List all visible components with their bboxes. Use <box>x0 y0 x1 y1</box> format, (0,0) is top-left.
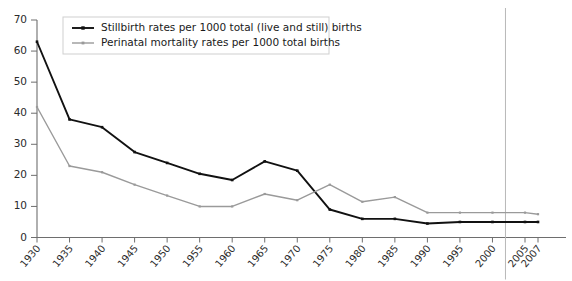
data-point <box>166 194 168 196</box>
x-tick-label: 1990 <box>408 243 433 270</box>
data-point <box>166 162 169 165</box>
data-point <box>394 218 397 221</box>
data-point <box>101 126 104 129</box>
series-line <box>37 107 538 214</box>
x-tick-label: 2000 <box>473 243 498 270</box>
data-point <box>491 212 493 214</box>
data-point <box>537 213 539 215</box>
x-tick-label: 1995 <box>441 243 466 270</box>
line-chart: 010203040506070 193019351940194519501955… <box>0 0 572 281</box>
legend-item-1[interactable]: Stillbirth rates per 1000 total (live an… <box>72 21 362 33</box>
y-axis-ticks: 010203040506070 <box>14 13 37 243</box>
x-tick-label: 1950 <box>148 243 173 270</box>
data-point <box>199 205 201 207</box>
legend-label: Stillbirth rates per 1000 total (live an… <box>101 21 362 33</box>
data-point <box>198 173 201 176</box>
data-point <box>537 221 540 224</box>
series-2 <box>36 106 539 215</box>
y-tick-label: 70 <box>14 13 27 25</box>
y-tick-label: 10 <box>14 199 27 211</box>
data-point <box>101 171 103 173</box>
data-point <box>426 212 428 214</box>
x-tick-label: 1945 <box>115 243 140 270</box>
data-point <box>133 151 136 154</box>
data-point <box>264 193 266 195</box>
x-tick-label: 1980 <box>343 243 368 270</box>
data-point <box>329 208 332 211</box>
data-point <box>394 196 396 198</box>
data-point <box>459 221 462 224</box>
data-point <box>68 165 70 167</box>
data-point <box>296 169 299 172</box>
data-point <box>426 222 429 225</box>
x-tick-label: 1975 <box>311 243 336 270</box>
series-line <box>37 42 538 224</box>
data-point <box>36 106 38 108</box>
x-tick-label: 1970 <box>278 243 303 270</box>
data-point <box>68 118 71 121</box>
data-point <box>231 205 233 207</box>
data-point <box>361 201 363 203</box>
x-tick-label: 1985 <box>376 243 401 270</box>
data-point <box>491 221 494 224</box>
data-point <box>134 184 136 186</box>
series-1 <box>36 40 540 224</box>
legend-swatch-marker <box>82 42 85 45</box>
legend-swatch-marker <box>81 26 84 29</box>
chart-legend: Stillbirth rates per 1000 total (live an… <box>63 17 362 54</box>
data-point <box>524 212 526 214</box>
series-layer <box>36 40 540 224</box>
data-point <box>296 199 298 201</box>
legend-item-2[interactable]: Perinatal mortality rates per 1000 total… <box>72 36 340 48</box>
y-tick-label: 20 <box>14 168 27 180</box>
data-point <box>459 212 461 214</box>
data-point <box>36 40 39 43</box>
x-tick-label: 1965 <box>245 243 270 270</box>
legend-label: Perinatal mortality rates per 1000 total… <box>101 36 340 48</box>
y-tick-label: 50 <box>14 75 27 87</box>
x-tick-label: 1930 <box>18 243 43 270</box>
data-point <box>263 160 266 163</box>
y-tick-label: 0 <box>20 231 27 243</box>
data-point <box>524 221 527 224</box>
x-tick-label: 1960 <box>213 243 238 270</box>
chart-container: 010203040506070 193019351940194519501955… <box>0 0 572 281</box>
x-tick-label: 1940 <box>83 243 108 270</box>
x-tick-label: 1935 <box>50 243 75 270</box>
x-axis-ticks: 1930193519401945195019551960196519701975… <box>18 238 544 270</box>
data-point <box>231 179 234 182</box>
y-tick-label: 40 <box>14 106 27 118</box>
data-point <box>329 184 331 186</box>
y-tick-label: 60 <box>14 44 27 56</box>
x-tick-label: 1955 <box>180 243 205 270</box>
data-point <box>361 218 364 221</box>
y-tick-label: 30 <box>14 137 27 149</box>
